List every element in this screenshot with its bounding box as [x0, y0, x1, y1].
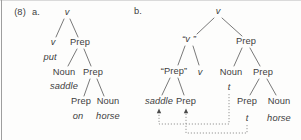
tree-b-node-horse: horse [267, 114, 291, 123]
tree-b-item-label: b. [134, 7, 142, 16]
tree-a-node-on: on [73, 112, 84, 121]
tree-a-node-put: put [43, 53, 56, 62]
tree-a-node-prep-1: Prep [70, 38, 90, 47]
tree-b-node-prep-head: Prep [176, 97, 196, 106]
tree-b-node-prep-top: Prep [236, 37, 256, 46]
tree-b-node-v-quoted: “v ” [182, 35, 196, 44]
tree-b-node-trace-prep: t [246, 114, 249, 123]
syntax-tree-figure: (8)a.vvPrepputNounPrepsaddlePrepNounonho… [0, 0, 301, 140]
tree-b-node-prep-low: Prep [237, 97, 257, 106]
tree-b-node-noun-1: Noun [220, 68, 243, 77]
tree-b-node-saddle: saddle [145, 97, 173, 106]
tree-a-node-prep-2: Prep [83, 68, 103, 77]
tree-a-item-label: a. [32, 8, 40, 17]
tree-a-node-noun-2: Noun [97, 97, 120, 106]
tree-b-node-trace-noun: t [228, 83, 231, 92]
tree-b-node-v-head: v [198, 68, 203, 77]
tree-b-node-v-root: v [216, 7, 221, 16]
nodes-layer: (8)a.vvPrepputNounPrepsaddlePrepNounonho… [0, 0, 301, 140]
tree-b-node-prep-mid: Prep [253, 68, 273, 77]
tree-a-node-horse: horse [96, 112, 120, 121]
tree-a-node-v-head: v [51, 38, 56, 47]
tree-b-node-noun-low: Noun [268, 97, 291, 106]
tree-a-node-saddle: saddle [50, 82, 78, 91]
tree-a-node-prep-3: Prep [71, 97, 91, 106]
tree-b-node-prep-quoted: “Prep” [161, 67, 187, 76]
figure-number: (8) [14, 8, 26, 17]
tree-a-node-v-root: v [65, 8, 70, 17]
tree-a-node-noun-1: Noun [53, 68, 76, 77]
